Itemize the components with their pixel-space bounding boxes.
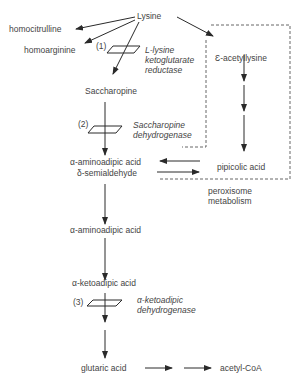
enzyme-1-line2: ketoglutarate [145, 55, 194, 65]
node-aminoadipic-acid: α-aminoadipic acid [70, 225, 141, 235]
node-pipecolic-acid: pipicolic acid [217, 162, 265, 172]
enzyme-2-number: (2) [78, 119, 88, 129]
enzyme-2-line2: dehydrogenase [133, 130, 192, 140]
compartment-line2: metabolism [208, 196, 251, 206]
arrow-lysine-homoarginine [85, 20, 135, 43]
enzyme-2-line1: Saccharopine [133, 120, 185, 130]
node-lysine: Lysine [137, 11, 161, 21]
arrow-lysine-acetyllysine [177, 17, 213, 36]
enzyme-1-line3: reductase [145, 65, 182, 75]
node-acetyl-coa: acetyl-CoA [220, 363, 262, 373]
enzyme-1-number: (1) [96, 41, 106, 51]
enzyme-3-line2: dehydrogenase [137, 305, 196, 315]
node-aminoadipic-semialdehyde-line2: δ-semialdehyde [77, 168, 137, 178]
node-homocitrulline: homocitrulline [9, 24, 61, 34]
node-saccharopine: Saccharopine [85, 86, 137, 96]
node-homoarginine: homoarginine [24, 45, 76, 55]
arrow-lysine-saccharopine [113, 22, 139, 74]
node-aminoadipic-semialdehyde-line1: α-aminoadipic acid [70, 157, 141, 167]
arrow-lysine-homocitrulline [76, 17, 135, 29]
enzyme-1-line1: L-lysine [145, 45, 174, 55]
enzyme-3-line1: α-ketoadipic [137, 295, 183, 305]
node-glutaric-acid: glutaric acid [81, 363, 126, 373]
node-ketoadipic-acid: α-ketoadipic acid [72, 278, 136, 288]
enzyme-3-number: (3) [73, 297, 83, 307]
compartment-line1: peroxisome [208, 186, 252, 196]
peroxisome-boundary [158, 25, 290, 179]
node-acetyllysine: Ɛ-acetyllysine [215, 53, 267, 63]
